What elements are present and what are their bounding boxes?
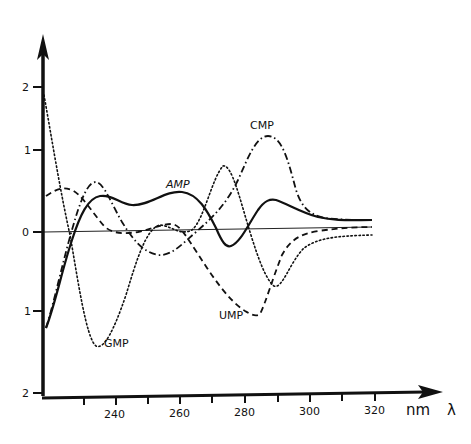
x-axis: 240 260 280 300 320 nm λ bbox=[42, 385, 456, 421]
series-label-amp: AMP bbox=[165, 178, 190, 191]
series-cmp-line bbox=[46, 136, 372, 328]
x-axis-unit-label: nm bbox=[406, 401, 430, 419]
y-tick-label: 2 bbox=[22, 81, 29, 94]
series-label-cmp: CMP bbox=[250, 119, 274, 132]
y-axis: 2 1 0 1 2 bbox=[22, 34, 49, 400]
cd-spectrum-chart: 2 1 0 1 2 240 260 280 300 320 nm λ AMP C… bbox=[0, 0, 471, 444]
x-tick-label: 320 bbox=[364, 404, 385, 417]
x-tick-label: 300 bbox=[299, 405, 320, 418]
series-amp-line bbox=[46, 192, 372, 328]
x-tick-label: 240 bbox=[104, 408, 125, 421]
series-label-gmp: GMP bbox=[104, 337, 129, 350]
series-ump-line bbox=[46, 188, 372, 315]
y-tick-label: 1 bbox=[24, 144, 31, 157]
y-tick-label: 0 bbox=[22, 226, 29, 239]
x-axis-lambda-symbol: λ bbox=[447, 401, 456, 419]
x-tick-label: 280 bbox=[234, 406, 255, 419]
y-tick-label: 1 bbox=[24, 305, 31, 318]
series-gmp-line bbox=[44, 95, 372, 347]
y-tick-label: 2 bbox=[22, 387, 29, 400]
x-tick-label: 260 bbox=[169, 407, 190, 420]
series-label-ump: UMP bbox=[219, 309, 244, 322]
